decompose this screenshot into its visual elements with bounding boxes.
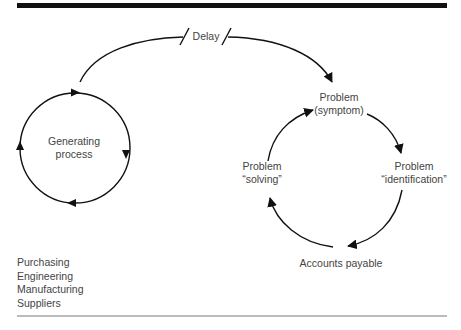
delay-arc bbox=[80, 37, 183, 82]
label-line: Generating bbox=[48, 135, 100, 148]
arrow-left-up-icon bbox=[16, 141, 24, 150]
arc-accounts-to-solving bbox=[270, 198, 333, 247]
problem-identification-node: Problem “identification” bbox=[381, 160, 446, 186]
arrow-top-right-icon bbox=[71, 89, 80, 97]
arrow-bottom-left-icon bbox=[67, 199, 76, 207]
arc-solving-to-symptom bbox=[268, 110, 313, 161]
label-line: Problem bbox=[242, 160, 282, 173]
label-line: Problem bbox=[314, 91, 364, 104]
label-line: (symptom) bbox=[314, 104, 364, 117]
delay-label: Delay bbox=[192, 30, 221, 43]
label-line: “solving” bbox=[242, 173, 282, 186]
department-item: Suppliers bbox=[17, 297, 84, 311]
department-item: Engineering bbox=[17, 270, 84, 284]
accounts-payable-node: Accounts payable bbox=[300, 257, 383, 270]
arc-symptom-to-identification bbox=[367, 114, 401, 153]
label-line: Problem bbox=[381, 160, 446, 173]
generating-process-label: Generating process bbox=[48, 135, 100, 161]
arc-identification-to-accounts bbox=[348, 190, 402, 246]
department-item: Manufacturing bbox=[17, 283, 84, 297]
label-line: process bbox=[48, 148, 100, 161]
department-item: Purchasing bbox=[17, 256, 84, 270]
label-line: “identification” bbox=[381, 173, 446, 186]
departments-list: Purchasing Engineering Manufacturing Sup… bbox=[17, 256, 84, 310]
top-rule bbox=[17, 3, 447, 8]
problem-solving-node: Problem “solving” bbox=[242, 160, 282, 186]
problem-symptom-node: Problem (symptom) bbox=[314, 91, 364, 117]
delay-arc-2 bbox=[228, 37, 332, 82]
